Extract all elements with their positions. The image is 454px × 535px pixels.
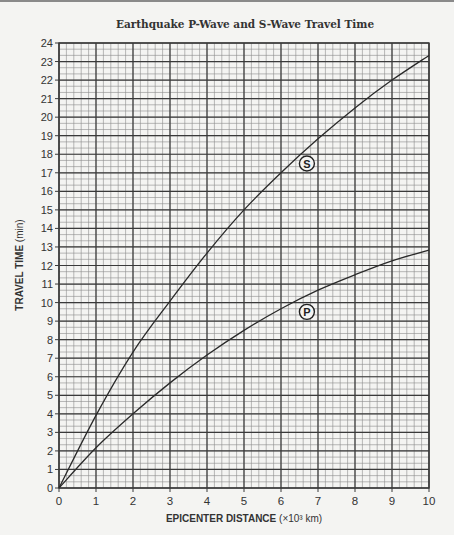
x-tick-label: 3 [167, 495, 173, 507]
y-axis-ticks: 0123456789101112131415161718192021222324 [41, 37, 59, 494]
x-tick-label: 0 [56, 495, 62, 507]
y-tick-label: 11 [42, 278, 53, 290]
y-tick-label: 12 [41, 260, 53, 272]
x-tick-label: 9 [389, 495, 395, 507]
y-tick-label: 15 [41, 204, 53, 216]
y-tick-label: 9 [47, 315, 53, 327]
x-tick-label: 8 [352, 495, 358, 507]
y-tick-label: 18 [41, 148, 53, 160]
p-wave-label: P [299, 304, 314, 319]
y-tick-label: 13 [41, 241, 53, 253]
y-tick-label: 0 [47, 482, 53, 494]
x-tick-label: 4 [204, 495, 211, 507]
y-tick-label: 14 [41, 222, 53, 234]
y-tick-label: 5 [47, 389, 53, 401]
x-tick-label: 10 [423, 495, 436, 507]
y-tick-label: 19 [41, 130, 53, 142]
y-tick-label: 8 [47, 334, 53, 346]
y-tick-label: 4 [47, 408, 53, 420]
y-tick-label: 10 [41, 297, 53, 309]
svg-text:P: P [303, 306, 310, 318]
x-axis-label: EPICENTER DISTANCE (×10³ km) [166, 513, 322, 524]
y-tick-label: 21 [41, 93, 53, 105]
y-tick-label: 2 [47, 445, 53, 457]
y-tick-label: 1 [47, 463, 53, 475]
x-axis-ticks: 012345678910 [56, 488, 436, 507]
y-tick-label: 24 [41, 37, 53, 49]
x-tick-label: 2 [130, 495, 136, 507]
y-axis-label: TRAVEL TIME (min) [14, 219, 25, 310]
x-tick-label: 6 [278, 495, 284, 507]
y-tick-label: 20 [41, 111, 53, 123]
y-tick-label: 7 [47, 352, 53, 364]
s-wave-label: S [299, 156, 314, 171]
y-tick-label: 16 [41, 185, 53, 197]
y-tick-label: 6 [47, 371, 53, 383]
x-tick-label: 1 [93, 495, 99, 507]
x-tick-label: 7 [315, 495, 321, 507]
chart-plot: 0123456789101112131415161718192021222324… [0, 0, 454, 535]
major-grid [59, 43, 429, 488]
y-tick-label: 17 [41, 167, 53, 179]
x-tick-label: 5 [241, 495, 247, 507]
svg-text:S: S [303, 158, 310, 170]
y-tick-label: 23 [41, 56, 53, 68]
y-tick-label: 3 [47, 426, 53, 438]
y-tick-label: 22 [41, 74, 53, 86]
